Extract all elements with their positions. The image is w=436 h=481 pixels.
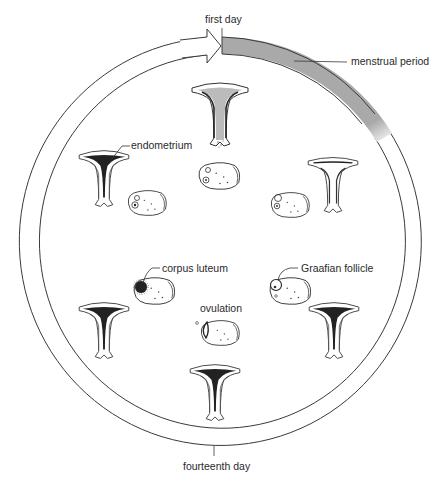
uterus-lower-left — [79, 303, 129, 359]
released-ovum — [196, 322, 199, 325]
uterus-endometrium — [79, 151, 129, 207]
label-ovulation: ovulation — [200, 303, 242, 314]
ovary-early — [199, 163, 240, 190]
ovary-upper-right — [271, 193, 309, 218]
ovary-upper-left — [128, 191, 166, 216]
label-endometrium: endometrium — [131, 140, 192, 151]
corpus-luteum-body — [135, 281, 147, 293]
uterus-upper-right — [308, 158, 358, 213]
label-fourteenth-day: fourteenth day — [183, 461, 250, 472]
menstrual-cycle-diagram — [0, 0, 436, 481]
label-corpus-luteum: corpus luteum — [162, 263, 228, 274]
cycle-arrowhead — [180, 29, 221, 63]
uterus-menstruation — [192, 83, 248, 148]
label-first-day: first day — [205, 14, 242, 25]
label-menstrual-period: menstrual period — [351, 56, 429, 67]
graafian-follicle-body — [271, 280, 282, 291]
uterus-bottom — [190, 365, 240, 421]
uterus-lower-right — [309, 303, 359, 359]
label-graafian-follicle: Graafian follicle — [301, 263, 373, 274]
